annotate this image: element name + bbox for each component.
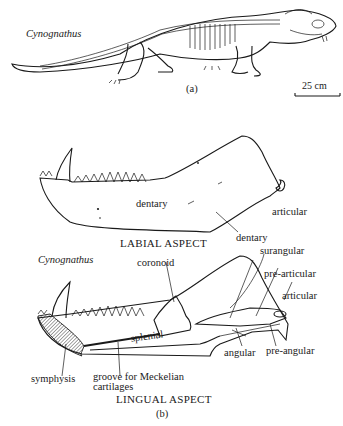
species-label-a: Cynognathus (26, 28, 81, 39)
lingual-articular-label: articular (282, 290, 317, 301)
scale-bar (295, 93, 340, 96)
panel-label-a: (a) (186, 83, 198, 94)
cynognathus-figure: Cynognathus (a) 25 cm dentary articular … (0, 0, 343, 426)
skeleton-drawing (12, 10, 336, 85)
labial-dentary-label: dentary (136, 198, 168, 209)
lingual-dentary-label: dentary (236, 232, 268, 243)
symphysis-label: symphysis (31, 373, 75, 384)
labial-jaw-drawing (40, 136, 285, 232)
scale-bar-label: 25 cm (302, 80, 327, 91)
species-label-b: Cynognathus (38, 254, 93, 265)
labial-articular-label: articular (272, 206, 307, 217)
lingual-aspect-title: LINGUAL ASPECT (116, 394, 212, 405)
angular-label: angular (224, 347, 256, 358)
panel-label-b: (b) (156, 408, 168, 419)
pre-articular-label: pre-articular (264, 268, 316, 279)
surangular-label: surangular (260, 245, 304, 256)
coronoid-label: coronoid (137, 257, 174, 268)
groove-label-line2: cartilages (93, 381, 133, 392)
pre-angular-label: pre-angular (266, 345, 314, 356)
labial-aspect-title: LABIAL ASPECT (120, 238, 207, 249)
